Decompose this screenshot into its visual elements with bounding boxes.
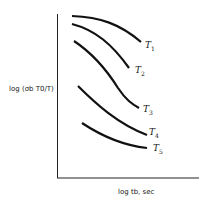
curve-t1 [72, 16, 141, 42]
y-axis-label: log (σb T0/T) [9, 85, 54, 93]
label-t5: T5 [153, 143, 163, 155]
x-axis-label: log tb, sec [118, 188, 154, 196]
curve-t5 [82, 123, 147, 148]
label-t2: T2 [135, 65, 145, 77]
curve-t3 [74, 41, 139, 108]
chart-canvas [0, 0, 206, 204]
label-t1: T1 [145, 40, 155, 52]
label-t3: T3 [143, 104, 153, 116]
label-t4: T4 [149, 127, 159, 139]
